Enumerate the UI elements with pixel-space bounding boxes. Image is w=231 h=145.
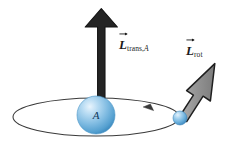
orbit-direction-arrowhead (143, 104, 153, 111)
rotational-angular-momentum-label: Lrot (186, 42, 203, 59)
body-A-letter: A (93, 109, 100, 121)
rotational-symbol: L (186, 43, 194, 58)
translational-subscript-body: A (144, 44, 149, 53)
translational-symbol: L (119, 37, 127, 52)
figure-graphics-layer (0, 0, 231, 145)
angular-momentum-figure: Ltrans,A Lrot A (0, 0, 231, 145)
vector-arrow-icon (186, 36, 195, 43)
translational-subscript: trans, (127, 44, 144, 53)
orbiting-particle-sphere (173, 111, 187, 125)
translational-angular-momentum-label: Ltrans,A (119, 36, 149, 53)
rotational-subscript: rot (194, 50, 203, 59)
vector-arrow-icon (119, 30, 128, 37)
